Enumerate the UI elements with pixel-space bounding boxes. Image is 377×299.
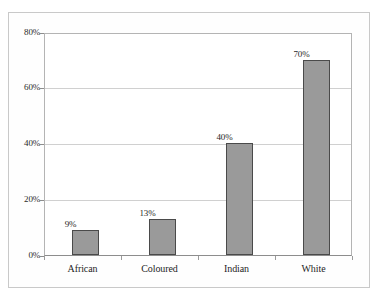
x-tick-mark-4 — [352, 256, 353, 260]
y-axis-label-0: 0% — [0, 251, 40, 261]
x-tick-mark-3 — [275, 256, 276, 260]
y-axis-label-80: 80% — [0, 28, 40, 38]
x-axis-label-african: African — [44, 263, 121, 275]
x-tick-mark-0 — [44, 256, 45, 260]
y-axis-label-80-text: 80% — [2, 28, 40, 37]
y-axis-label-20: 20% — [0, 195, 40, 205]
plot-area — [44, 33, 352, 256]
bar-value-label-indian: 40% — [211, 132, 238, 142]
x-tick-mark-1 — [121, 256, 122, 260]
y-axis-label-40-text: 40% — [2, 139, 40, 148]
bar-indian[interactable] — [226, 143, 253, 255]
bar-value-label-white: 70% — [288, 49, 315, 59]
x-axis-label-white: White — [275, 263, 352, 275]
x-axis-label-coloured: Coloured — [121, 263, 198, 275]
bar-white[interactable] — [303, 60, 330, 255]
figure-container: 80% 60% 40% 20% 0% — [0, 0, 377, 299]
x-tick-mark-2 — [198, 256, 199, 260]
bar-value-label-african: 9% — [57, 219, 84, 229]
y-axis-label-60-text: 60% — [2, 83, 40, 92]
x-axis-label-indian: Indian — [198, 263, 275, 275]
y-axis-label-20-text: 20% — [2, 195, 40, 204]
bar-value-label-coloured: 13% — [134, 208, 161, 218]
bar-chart: 80% 60% 40% 20% 0% — [0, 0, 377, 299]
bar-african[interactable] — [72, 230, 99, 255]
y-axis-label-60: 60% — [0, 83, 40, 93]
y-axis-label-0-text: 0% — [2, 251, 40, 260]
bar-coloured[interactable] — [149, 219, 176, 255]
y-axis-label-40: 40% — [0, 139, 40, 149]
